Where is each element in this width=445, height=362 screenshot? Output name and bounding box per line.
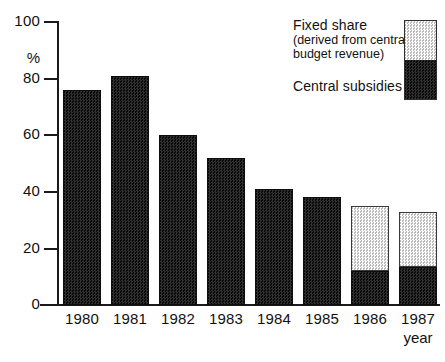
y-tick-20: 20 [0,248,57,250]
y-tick-label: 20 [6,240,40,255]
bar-segment-central-subsidies [63,90,101,305]
legend-sublabel-fixed-share-line2: budget revenue) [293,47,408,61]
bar-stack [351,206,389,305]
y-tick-label: 60 [6,126,40,141]
y-tick-label: 80 [6,70,40,85]
bar-segment-central-subsidies [111,76,149,305]
bar-segment-central-subsidies [351,271,389,305]
bar-stack [111,76,149,305]
legend-label-fixed-share: Fixed share [293,17,408,33]
bar-segment-central-subsidies [159,135,197,305]
legend-swatch [404,20,437,100]
x-tick-label-1987: 1987 [390,311,445,327]
bar-segment-central-subsidies [303,197,341,305]
bar-chart: % 100 80 60 40 20 0 [0,0,445,362]
bar-segment-central-subsidies [399,267,437,305]
y-tick-label: 0 [6,296,40,311]
y-axis-line [57,21,59,306]
y-axis-unit-label: % [0,50,40,65]
bar-stack [207,158,245,305]
x-axis-unit-label: year [390,330,445,346]
y-tick-mark [44,248,57,250]
legend-swatch-fixed-share [405,21,436,60]
y-tick-mark [44,134,57,136]
y-tick-40: 40 [0,191,57,193]
bar-stack [255,189,293,305]
bar-stack [399,212,437,305]
legend-swatch-central-subsidies [405,60,436,99]
bar-stack [303,197,341,305]
bar-segment-central-subsidies [207,158,245,305]
legend-label-central-subsidies: Central subsidies [293,78,402,94]
y-tick-mark [44,78,57,80]
bar-stack [159,135,197,305]
y-tick-label: 100 [6,13,40,28]
chart-legend: Fixed share (derived from central budget… [293,17,439,107]
legend-entry-fixed-share: Fixed share (derived from central budget… [293,17,408,61]
bar-segment-fixed-share [399,212,437,267]
legend-sublabel-fixed-share-line1: (derived from central [293,33,408,47]
y-tick-80: 80 [0,78,57,80]
bar-segment-central-subsidies [255,189,293,305]
y-tick-60: 60 [0,134,57,136]
bar-segment-fixed-share [351,206,389,271]
y-tick-mark [44,21,57,23]
y-tick-mark [44,191,57,193]
legend-entry-central-subsidies: Central subsidies [293,78,402,94]
y-tick-label: 40 [6,183,40,198]
bar-stack [63,90,101,305]
y-tick-100: 100 [0,21,57,23]
